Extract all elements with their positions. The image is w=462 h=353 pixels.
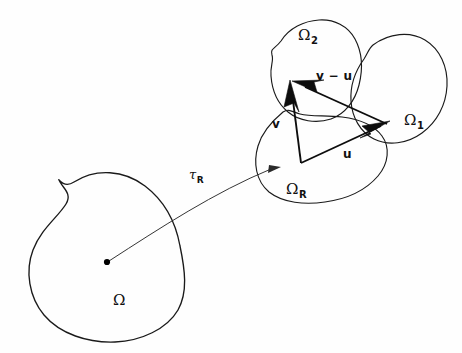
region-label-omega-1-sub: 1 bbox=[417, 120, 424, 131]
region-label-omega-r: ΩR bbox=[286, 182, 307, 200]
deformation-map-arrowhead bbox=[268, 165, 281, 173]
region-label-omega-2-base: Ω bbox=[298, 26, 310, 44]
region-label-omega-1: Ω1 bbox=[404, 113, 424, 131]
figure-vector-graphics bbox=[0, 0, 462, 353]
region-label-omega: Ω bbox=[113, 293, 126, 311]
region-label-omega-2-sub: 2 bbox=[311, 35, 318, 46]
material-point-marker bbox=[104, 259, 110, 265]
region-label-omega-r-sub: R bbox=[299, 189, 307, 200]
region-label-omega-2: Ω2 bbox=[298, 28, 318, 46]
region-label-omega-1-base: Ω bbox=[404, 111, 416, 129]
map-label-tau-base: τ bbox=[189, 167, 196, 182]
map-label-tau-r: τR bbox=[189, 168, 204, 185]
vector-arrowhead-v bbox=[284, 80, 299, 112]
vector-label-v: v bbox=[272, 118, 280, 130]
vector-line-v-minus-u bbox=[305, 87, 387, 124]
region-outline-omega bbox=[29, 173, 185, 342]
region-label-omega-r-base: Ω bbox=[286, 180, 298, 198]
vector-label-v-minus-u: v − u bbox=[316, 70, 352, 82]
figure-canvas: Ω ΩR Ω1 Ω2 τR u v v − u bbox=[0, 0, 462, 353]
map-label-tau-sub: R bbox=[197, 175, 204, 185]
vector-label-u: u bbox=[343, 148, 352, 160]
region-label-omega-base: Ω bbox=[113, 291, 125, 309]
